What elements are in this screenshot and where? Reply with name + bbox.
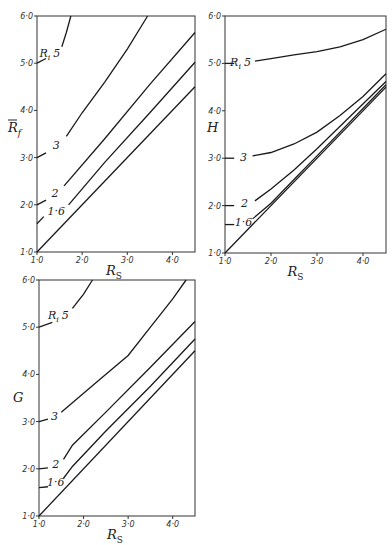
y-axis-label: G [13,390,23,405]
curve-ri-1 [37,87,195,252]
x-tick-label: 4·0 [166,256,179,265]
x-tick-label: 2·0 [76,256,89,265]
x-axis-label: RS [105,263,122,281]
y-tick-label: 3·0 [22,418,35,427]
curve-ri-1·6 [64,339,195,478]
y-tick-label: 2·0 [20,201,33,210]
curve-ri-2-lead [37,200,46,205]
x-tick-label: 4·0 [357,257,370,266]
curve-ri-2 [64,322,195,460]
figure: 1·02·03·04·05·06·01·02·03·04·0RSRf1·623R… [0,0,392,545]
x-axis-label: RS [106,527,123,545]
curve-ri-5-lead [39,322,52,327]
curve-ri-1·6-lead [37,217,44,224]
x-tick-label: 3·0 [311,257,324,266]
x-tick-label: 3·0 [122,520,135,529]
curve-label: 3 [53,139,60,152]
curve-label: 2 [51,187,59,200]
x-tick-label: 4·0 [166,520,179,529]
y-tick-label: 5·0 [20,59,33,68]
curve-ri-1 [39,351,195,516]
x-tick-label: 1·0 [31,256,44,265]
curve-ri-3 [61,280,186,412]
x-axis-label: RS [287,264,304,282]
curve-label: Ri5 [47,309,69,324]
y-tick-label: 6·0 [208,12,221,21]
x-tick-label: 1·0 [33,520,46,529]
rf-chart: 1·02·03·04·05·06·01·02·03·04·0RSRf1·623R… [7,12,195,281]
g-chart: 1·02·03·04·05·06·01·02·03·04·0RSG1·623Ri… [13,276,195,545]
y-tick-label: 3·0 [20,154,33,163]
y-tick-label: 6·0 [20,12,33,21]
y-tick-label: 5·0 [208,59,221,68]
h-chart: 1·02·03·04·05·06·01·02·03·04·0RSH1·623Ri… [206,12,386,282]
y-tick-label: 3·0 [208,154,221,163]
curve-label: 2 [51,458,59,471]
y-tick-label: 2·0 [208,202,221,211]
curve-label: Ri5 [38,47,60,62]
curve-label: 3 [51,410,58,423]
y-axis-label: Rf [7,120,23,138]
x-tick-label: 2·0 [265,257,278,266]
y-tick-label: 4·0 [20,106,33,115]
x-tick-label: 3·0 [121,256,134,265]
curve-label: 1·6 [47,476,65,489]
x-tick-label: 2·0 [77,520,90,529]
y-axis-label: H [206,120,219,135]
x-tick-label: 1·0 [219,257,232,266]
curve-label: 3 [240,151,247,164]
curve-ri-5 [72,280,92,308]
curve-ri-1·6 [69,62,195,205]
curve-ri-5 [255,29,386,61]
y-tick-label: 5·0 [22,323,35,332]
curve-label: 1·6 [47,205,65,218]
curve-label: Ri5 [229,56,251,71]
curve-label: 2 [240,197,248,210]
curve-ri-2 [255,81,386,200]
y-tick-label: 4·0 [208,107,221,116]
curve-ri-3 [253,74,386,156]
curve-ri-3-lead [37,153,46,158]
y-tick-label: 4·0 [22,370,35,379]
y-tick-label: 6·0 [22,276,35,285]
curve-ri-5 [62,16,71,47]
curve-ri-3 [66,16,147,136]
y-tick-label: 2·0 [22,465,35,474]
curve-label: 1·6 [235,216,253,229]
curve-ri-2-lead [39,468,48,469]
curve-ri-2 [64,33,195,186]
curve-ri-3-lead [39,419,48,421]
